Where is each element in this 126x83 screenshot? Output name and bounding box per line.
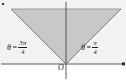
x-axis-endpoint-marker [122,62,125,65]
fraction-pi-over-4: π 4 [92,40,98,56]
corner-speck-mark [2,3,4,5]
polar-region-figure: θ = 3π 4 θ = π 4 O [0,0,126,83]
fraction-denominator-right: 4 [92,49,98,56]
theta-symbol-left: θ [7,44,11,52]
fraction-numerator-right: π [92,40,98,47]
origin-label: O [58,64,64,72]
label-theta-pi-over-4: θ = π 4 [81,40,98,56]
fraction-denominator-left: 4 [20,49,26,56]
fraction-numerator-left: 3π [18,40,27,47]
fraction-3pi-over-4: 3π 4 [18,40,27,56]
equals-sign-right: = [86,44,91,52]
equals-sign-left: = [12,44,17,52]
theta-symbol-right: θ [81,44,85,52]
label-theta-3pi-over-4: θ = 3π 4 [7,40,27,56]
